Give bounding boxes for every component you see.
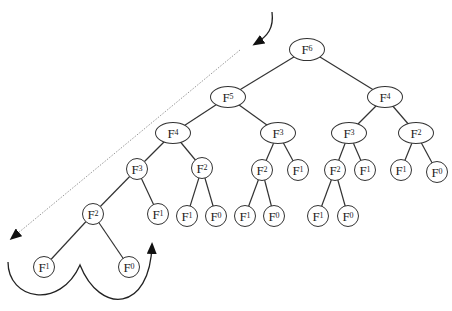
node-label: F [210, 210, 217, 223]
node-label: F [359, 164, 366, 177]
tree-node-f1: F1 [33, 256, 55, 278]
node-subscript: 3 [139, 165, 143, 173]
tree-node-f4: F4 [367, 86, 403, 108]
node-label: F [410, 127, 417, 140]
tree-node-f3: F3 [126, 158, 148, 180]
tree-node-f1: F1 [176, 205, 198, 227]
node-subscript: 0 [131, 263, 135, 271]
tree-node-f0: F0 [337, 205, 359, 227]
tree-node-f0: F0 [263, 205, 285, 227]
tree-node-f1: F1 [307, 205, 329, 227]
node-label: F [395, 164, 402, 177]
node-label: F [431, 166, 438, 179]
node-subscript: 3 [351, 129, 355, 137]
node-subscript: 1 [300, 166, 304, 174]
tree-node-f2: F2 [398, 122, 434, 144]
node-label: F [312, 210, 319, 223]
node-label: F [222, 91, 229, 104]
node-subscript: 1 [189, 212, 193, 220]
node-label: F [167, 127, 174, 140]
tree-node-f2: F2 [324, 159, 346, 181]
node-subscript: 1 [367, 166, 371, 174]
node-label: F [272, 127, 279, 140]
tree-node-f2: F2 [251, 159, 273, 181]
tree-node-f4: F4 [155, 122, 191, 144]
tree-node-f5: F5 [210, 86, 246, 108]
node-subscript: 2 [264, 166, 268, 174]
tree-node-f2: F2 [82, 203, 104, 225]
entry-arrow [255, 12, 272, 44]
tree-node-f1: F1 [234, 205, 256, 227]
node-subscript: 1 [247, 212, 251, 220]
tree-node-f1: F1 [354, 159, 376, 181]
node-subscript: 1 [320, 212, 324, 220]
node-label: F [181, 210, 188, 223]
node-label: F [239, 210, 246, 223]
node-label: F [152, 208, 159, 221]
node-label: F [292, 164, 299, 177]
tree-node-f1: F1 [147, 203, 169, 225]
node-subscript: 2 [204, 164, 208, 172]
node-label: F [131, 163, 138, 176]
node-subscript: 2 [418, 129, 422, 137]
tree-node-f3: F3 [331, 122, 367, 144]
node-subscript: 5 [230, 93, 234, 101]
node-subscript: 0 [276, 212, 280, 220]
node-subscript: 6 [309, 45, 313, 53]
node-label: F [343, 127, 350, 140]
node-label: F [123, 261, 130, 274]
node-subscript: 0 [439, 168, 443, 176]
tree-node-f0: F0 [426, 161, 448, 183]
node-subscript: 0 [218, 212, 222, 220]
node-subscript: 4 [175, 129, 179, 137]
node-subscript: 3 [280, 129, 284, 137]
node-label: F [196, 162, 203, 175]
node-label: F [301, 43, 308, 56]
node-label: F [38, 261, 45, 274]
node-subscript: 1 [403, 166, 407, 174]
edges-layer [0, 0, 452, 311]
node-subscript: 2 [337, 166, 341, 174]
tree-node-f3: F3 [260, 122, 296, 144]
node-label: F [87, 208, 94, 221]
node-subscript: 2 [95, 210, 99, 218]
tree-node-f1: F1 [390, 159, 412, 181]
node-label: F [329, 164, 336, 177]
tree-node-f0: F0 [205, 205, 227, 227]
node-subscript: 0 [350, 212, 354, 220]
node-subscript: 1 [46, 263, 50, 271]
tree-node-f0: F0 [118, 256, 140, 278]
node-subscript: 1 [160, 210, 164, 218]
node-label: F [379, 91, 386, 104]
tree-node-f1: F1 [287, 159, 309, 181]
node-label: F [268, 210, 275, 223]
tree-node-f2: F2 [191, 157, 213, 179]
tree-edges [44, 49, 437, 267]
node-label: F [256, 164, 263, 177]
fibonacci-tree-diagram: F6F5F4F4F3F3F2F3F2F2F1F2F1F1F0F2F1F1F0F1… [0, 0, 452, 311]
node-subscript: 4 [387, 93, 391, 101]
node-label: F [342, 210, 349, 223]
tree-node-f6: F6 [289, 38, 325, 61]
